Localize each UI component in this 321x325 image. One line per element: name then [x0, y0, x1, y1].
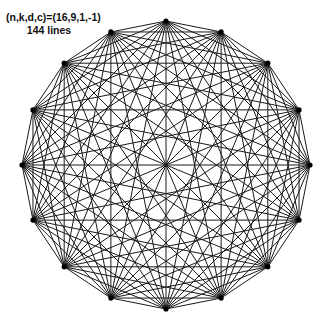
vertex-dot: [108, 29, 113, 34]
vertex-dot: [108, 295, 113, 300]
vertex-dot: [265, 264, 270, 269]
vertex-dot: [163, 306, 168, 311]
polygon-chord-diagram: [0, 0, 321, 325]
vertex-dot: [19, 162, 24, 167]
vertex-dot: [30, 218, 35, 223]
vertex-dot: [296, 107, 301, 112]
vertex-dot: [62, 264, 67, 269]
vertex-dot: [30, 107, 35, 112]
vertex-dot: [219, 295, 224, 300]
vertex-dot: [163, 18, 168, 23]
vertex-dot: [219, 29, 224, 34]
vertex-dot: [62, 61, 67, 66]
vertex-dot: [265, 61, 270, 66]
vertex-dot: [296, 218, 301, 223]
vertex-dot: [307, 162, 312, 167]
